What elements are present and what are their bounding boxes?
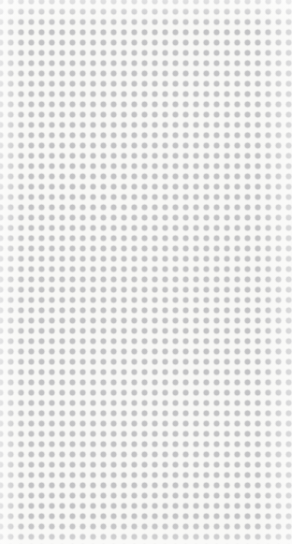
dot-grid-canvas (0, 0, 292, 544)
content-layer (0, 0, 292, 544)
